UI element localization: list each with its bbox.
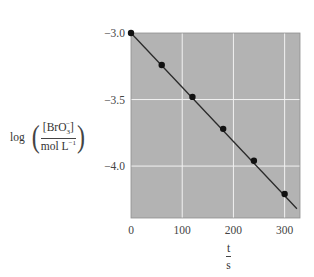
x-tick-label: 100 [174, 224, 192, 236]
y-axis-label: log ( [BrO3−] mol L−1 ) [10, 121, 85, 153]
x-axis-label: t s [226, 242, 231, 271]
y-tick-label: −3.5 [104, 94, 125, 106]
y-axis-numerator: [BrO3−] [41, 121, 76, 139]
x-axis-numerator: t [226, 242, 231, 257]
data-point [220, 126, 226, 132]
y-tick-label: −3.0 [104, 27, 125, 39]
y-axis-fraction: [BrO3−] mol L−1 [41, 121, 76, 153]
plot-area [128, 30, 300, 218]
y-axis-denominator: mol L−1 [41, 139, 76, 153]
data-point [281, 191, 287, 197]
y-tick-label: −4.0 [104, 160, 125, 172]
data-point [189, 94, 195, 100]
x-axis-denominator: s [226, 257, 230, 272]
x-tick-label: 200 [225, 224, 243, 236]
right-paren: ) [77, 121, 85, 152]
left-paren: ( [32, 121, 40, 152]
data-point [159, 62, 165, 68]
x-tick-label: 0 [128, 224, 134, 236]
x-axis-ticks: 0100200300 [128, 224, 293, 236]
x-tick-label: 300 [276, 224, 294, 236]
y-axis-ticks: −3.0−3.5−4.0 [104, 27, 125, 172]
data-point [251, 158, 257, 164]
data-point [128, 30, 134, 36]
y-axis-log-prefix: log [10, 131, 25, 143]
